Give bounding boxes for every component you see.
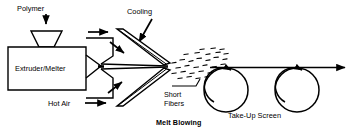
short-fibers-leader	[172, 79, 200, 86]
short-fibers-label-line1: Short	[164, 90, 181, 99]
die-block-upper	[86, 38, 113, 64]
die-block-lower	[86, 69, 113, 98]
lower-air-knife-divider	[120, 69, 167, 105]
take-up-roller-right	[275, 68, 319, 112]
diagram-caption: Melt Blowing	[156, 118, 202, 127]
polymer-label: Polymer	[17, 4, 45, 13]
die-nozzle-upper-edge	[101, 64, 168, 66]
die-orifice	[98, 65, 104, 68]
lower-knife-arrow	[108, 82, 122, 93]
take-up-roller-left	[204, 68, 248, 112]
cooling-arrow	[139, 19, 152, 42]
hot-air-label: Hot Air	[48, 99, 71, 108]
die-nozzle-lower-edge	[101, 67, 168, 69]
extruder-label: Extruder/Melter	[15, 64, 66, 73]
upper-knife-arrow	[110, 42, 124, 53]
melt-blowing-diagram: Polymer Extruder/Melter Cooling Hot Air	[0, 0, 358, 136]
cooling-label: Cooling	[127, 7, 152, 16]
take-up-screen-label: Take-Up Screen	[228, 111, 281, 120]
short-fibers-label-line2: Fibers	[164, 99, 184, 108]
diagram-canvas: Polymer Extruder/Melter Cooling Hot Air	[0, 0, 358, 136]
hopper	[31, 31, 62, 47]
